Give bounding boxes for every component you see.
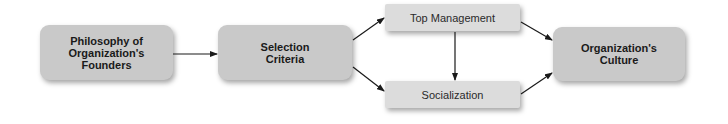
arrows-layer xyxy=(0,0,728,124)
arrow-selection-to-top-management xyxy=(353,18,384,40)
arrow-selection-to-socialization xyxy=(353,67,384,91)
arrow-top-management-to-culture xyxy=(521,22,552,40)
arrow-socialization-to-culture xyxy=(521,73,552,94)
